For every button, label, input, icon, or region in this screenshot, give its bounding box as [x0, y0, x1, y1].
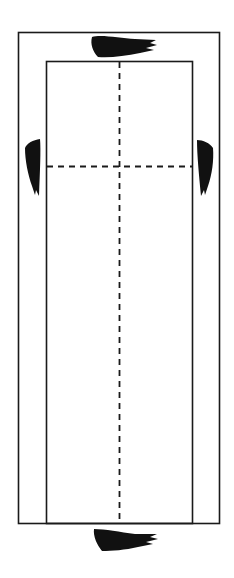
brush-marker-bottom: [94, 529, 158, 551]
court-diagram: [0, 0, 234, 578]
brush-marker-left: [25, 139, 40, 196]
brush-marker-right: [197, 140, 213, 196]
brush-marker-top: [91, 36, 157, 57]
